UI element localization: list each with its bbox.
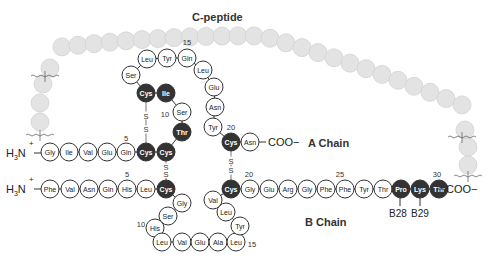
a-number-10: 10 bbox=[161, 110, 169, 119]
b-chain-residue-2-val: Val bbox=[61, 180, 79, 198]
b-chain-residue-5-his: His bbox=[118, 180, 136, 198]
residue-label: Gly bbox=[245, 186, 256, 194]
residue-label: Cys bbox=[140, 90, 153, 98]
residue-label: Phe bbox=[44, 186, 57, 193]
c-peptide-residue bbox=[117, 32, 135, 50]
c-peptide-residue bbox=[197, 27, 215, 45]
residue-label: Thr bbox=[378, 186, 389, 193]
c-peptide-residue bbox=[325, 49, 343, 67]
a-chain-residue-21-asn: Asn bbox=[241, 133, 259, 151]
b-chain: PheValAsnGlnHisLeuCysGlySerHisLeuValGluA… bbox=[41, 180, 448, 251]
c-peptide-residue bbox=[405, 77, 423, 95]
b-number-25: 25 bbox=[336, 170, 344, 179]
c-peptide-residue bbox=[437, 90, 455, 108]
residue-label: Leu bbox=[140, 186, 152, 193]
residue-label: Asn bbox=[244, 139, 256, 146]
residue-label: Cys bbox=[160, 186, 173, 194]
plus-sign: + bbox=[29, 139, 34, 148]
a-chain-residue-17-glu: Glu bbox=[205, 78, 223, 96]
sulfur-atom: S bbox=[163, 170, 168, 179]
residue-label: Gly bbox=[302, 186, 313, 194]
a-chain-residue-12-ser: Ser bbox=[122, 66, 140, 84]
c-peptide-residue bbox=[421, 83, 439, 101]
b-chain-residue-27-thr: Thr bbox=[374, 180, 392, 198]
c-peptide-residue bbox=[165, 29, 183, 47]
b-chain-residue-29-lys: Lys bbox=[411, 180, 429, 198]
cleavage-site-b-c bbox=[454, 171, 482, 182]
b-chain-residue-15-leu: Leu bbox=[227, 233, 245, 251]
residue-label: Cys bbox=[140, 149, 153, 157]
b-number-5: 5 bbox=[125, 170, 129, 179]
c-peptide-residue bbox=[85, 35, 103, 53]
a-chain-residue-7-cys: Cys bbox=[157, 143, 175, 161]
b-chain-residue-12-val: Val bbox=[173, 233, 191, 251]
residue-label: His bbox=[150, 225, 161, 232]
residue-label: Lys bbox=[414, 186, 426, 194]
a-number-20: 20 bbox=[227, 123, 235, 132]
b28-marker: B28 bbox=[389, 198, 407, 219]
c-peptide-residue bbox=[213, 27, 231, 45]
b-chain-residue-4-gln: Gln bbox=[99, 180, 117, 198]
a-chain-residue-16-leu: Leu bbox=[194, 61, 212, 79]
a-chain-residue-9-ser: Ser bbox=[173, 103, 191, 121]
residue-label: Glu bbox=[264, 186, 275, 193]
residue-label: Gly bbox=[177, 200, 188, 208]
c-peptide-residue bbox=[31, 113, 49, 131]
b28-label: B28 bbox=[389, 208, 407, 219]
residue-label: Glu bbox=[209, 84, 220, 91]
a-chain-residue-19-tyr: Tyr bbox=[204, 118, 222, 136]
c-peptide-residue bbox=[34, 75, 52, 93]
c-peptide-residue bbox=[133, 31, 151, 49]
a-number-15: 15 bbox=[183, 38, 191, 47]
a-chain-residue-20-cys: Cys bbox=[222, 133, 240, 151]
residue-label: Ser bbox=[177, 109, 189, 116]
b-chain-residue-13-glu: Glu bbox=[191, 233, 209, 251]
residue-label: Ile bbox=[65, 149, 73, 156]
residue-label: Ile bbox=[162, 90, 170, 97]
c-peptide-residue bbox=[245, 27, 263, 45]
c-peptide-residue bbox=[389, 71, 407, 89]
residue-label: Glu bbox=[195, 239, 206, 246]
a-chain-n-terminus: H3N + bbox=[6, 139, 41, 161]
b-chain-residue-6-leu: Leu bbox=[137, 180, 155, 198]
b-chain-residue-20-gly: Gly bbox=[241, 180, 259, 198]
b-chain-residue-3-asn: Asn bbox=[80, 180, 98, 198]
residue-label: Val bbox=[177, 239, 187, 246]
sulfur-atom: S bbox=[228, 157, 233, 166]
residue-label: Ser bbox=[126, 72, 138, 79]
residue-label: Tyr bbox=[162, 55, 172, 63]
a-chain-residue-14-tyr: Tyr bbox=[158, 49, 176, 67]
c-terminus-text: COO− bbox=[268, 136, 299, 148]
c-peptide-residue bbox=[261, 29, 279, 47]
c-terminus-text: COO− bbox=[446, 183, 477, 195]
c-peptide-residue bbox=[53, 38, 71, 56]
sulfur-atom: S bbox=[143, 112, 148, 121]
b-chain-residue-22-arg: Arg bbox=[279, 180, 297, 198]
b-chain-residue-21-glu: Glu bbox=[260, 180, 278, 198]
a-chain-residue-10-ile: Ile bbox=[157, 84, 175, 102]
b-chain-residue-14-ala: Ala bbox=[209, 233, 227, 251]
sulfur-atom: S bbox=[143, 125, 148, 134]
c-peptide-residue bbox=[309, 44, 327, 62]
c-peptide-residue bbox=[357, 60, 375, 78]
b-chain-residue-11-leu: Leu bbox=[153, 233, 171, 251]
b-chain-residue-26-tyr: Tyr bbox=[355, 180, 373, 198]
n-terminus-text: H3N bbox=[6, 183, 26, 197]
a-chain-residue-13-leu: Leu bbox=[138, 50, 156, 68]
residue-label: Cys bbox=[225, 186, 238, 194]
residue-label: Gly bbox=[45, 149, 56, 157]
c-peptide-residue bbox=[341, 54, 359, 72]
b-chain-label: B Chain bbox=[305, 216, 347, 228]
residue-label: Glu bbox=[102, 149, 113, 156]
sulfur-atom: S bbox=[228, 166, 233, 175]
b-chain-residue-16-tyr: Tyr bbox=[231, 217, 249, 235]
residue-label: Asn bbox=[83, 186, 95, 193]
disulfide-a6-a11: SS bbox=[143, 102, 149, 143]
b-chain-residue-24-phe: Phe bbox=[317, 180, 335, 198]
c-peptide-residue bbox=[293, 39, 311, 57]
c-peptide-residue bbox=[277, 34, 295, 52]
residue-label: Leu bbox=[156, 239, 168, 246]
a-chain-residue-4-glu: Glu bbox=[98, 143, 116, 161]
b-number-10: 10 bbox=[137, 220, 145, 229]
b-chain-residue-23-gly: Gly bbox=[298, 180, 316, 198]
